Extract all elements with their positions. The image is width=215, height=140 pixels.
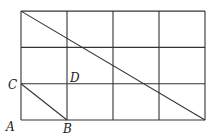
point-label-c: C <box>8 78 17 92</box>
grid-diagram: A B C D <box>0 0 215 140</box>
point-label-b: B <box>62 122 72 136</box>
point-label-d: D <box>69 71 80 85</box>
segment-cb <box>21 84 67 120</box>
point-label-a: A <box>5 120 15 134</box>
